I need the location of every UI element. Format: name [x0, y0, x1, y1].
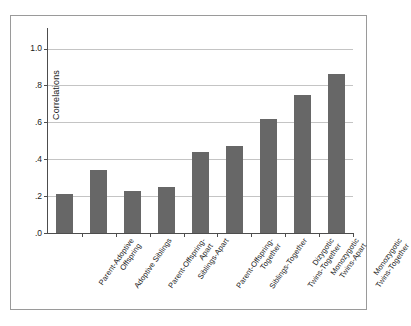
x-tick-label: MonozygoticTwins-Together	[367, 237, 411, 290]
y-tick-label: .2	[16, 192, 42, 201]
bar	[226, 146, 243, 233]
x-tick-mark	[285, 234, 286, 237]
bar	[294, 95, 311, 233]
x-tick-mark	[251, 234, 252, 237]
plot-area	[48, 30, 353, 233]
x-tick-mark	[217, 234, 218, 237]
bar	[260, 119, 277, 233]
y-tick-label: 1.0	[16, 44, 42, 53]
x-tick-mark	[184, 234, 185, 237]
gridline	[48, 49, 353, 50]
bar	[56, 194, 73, 233]
bar	[158, 187, 175, 233]
x-tick-mark	[116, 234, 117, 237]
y-tick-label: .8	[16, 81, 42, 90]
x-tick-mark	[82, 234, 83, 237]
x-tick-mark	[319, 234, 320, 237]
bar	[192, 152, 209, 233]
y-tick-label: .4	[16, 155, 42, 164]
y-tick-label: .0	[16, 229, 42, 238]
x-axis-line	[47, 233, 354, 234]
y-tick-mark	[44, 233, 48, 234]
bar	[90, 170, 107, 233]
x-tick-mark	[150, 234, 151, 237]
bar	[328, 74, 345, 233]
gridline	[48, 85, 353, 86]
bar	[124, 191, 141, 233]
y-tick-label: .6	[16, 118, 42, 127]
